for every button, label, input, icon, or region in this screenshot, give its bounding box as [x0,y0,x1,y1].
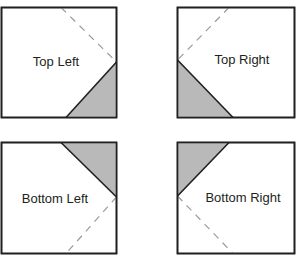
panel-label: Bottom Left [22,191,89,206]
panel-label: Top Left [33,54,80,69]
panel-bottom-left: Bottom Left [2,143,117,254]
panel-label: Top Right [215,52,270,67]
corner-orientation-diagram: Top Left Top Right Bottom Left Bottom Ri… [0,0,299,259]
panel-top-right: Top Right [178,8,295,118]
panel-label: Bottom Right [205,190,281,205]
panel-top-left: Top Left [2,8,117,118]
panel-bottom-right: Bottom Right [178,143,295,254]
